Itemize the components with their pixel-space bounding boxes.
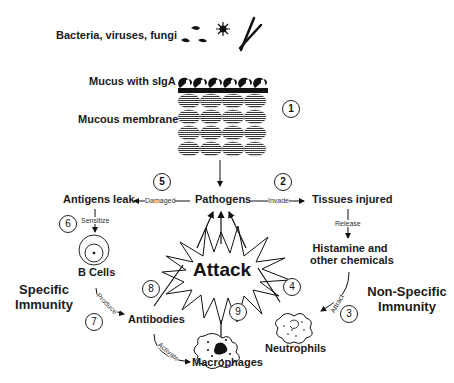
diagram-canvas bbox=[0, 0, 454, 383]
specific-line1: Specific bbox=[14, 282, 74, 297]
membrane-cells-icon bbox=[178, 94, 266, 156]
step-8: 8 bbox=[142, 280, 160, 298]
node-neutrophils: Neutrophils bbox=[265, 342, 326, 354]
nonspecific-line1: Non-Specific bbox=[362, 284, 452, 299]
fungi-icon bbox=[240, 18, 261, 50]
step-1: 1 bbox=[282, 100, 300, 118]
node-tissues-injured: Tissues injured bbox=[312, 193, 393, 205]
histamine-line1: Histamine and bbox=[310, 242, 390, 254]
histamine-line2: other chemicals bbox=[310, 254, 390, 266]
node-attack: Attack bbox=[193, 259, 251, 281]
mucus-layer-icon bbox=[178, 78, 268, 93]
node-b-cells: B Cells bbox=[78, 266, 115, 278]
neutrophil-icon bbox=[275, 313, 312, 343]
edge-sensitize: Sensitize bbox=[81, 217, 109, 224]
step-3: 3 bbox=[340, 305, 358, 323]
label-specific-immunity: Specific Immunity bbox=[14, 282, 74, 312]
step-4: 4 bbox=[283, 278, 301, 296]
edge-damaged: Damaged bbox=[145, 197, 175, 204]
node-antibodies: Antibodies bbox=[128, 313, 185, 325]
label-pathogen-types: Bacteria, viruses, fungi bbox=[56, 29, 177, 41]
edge-invade: Invade bbox=[268, 197, 289, 204]
node-pathogens: Pathogens bbox=[195, 193, 251, 205]
specific-line2: Immunity bbox=[14, 297, 74, 312]
step-7: 7 bbox=[85, 313, 103, 331]
node-macrophages: Macrophages bbox=[192, 356, 263, 368]
step-9: 9 bbox=[229, 303, 247, 321]
step-6: 6 bbox=[59, 215, 77, 233]
edge-release: Release bbox=[335, 220, 361, 227]
nonspecific-line2: Immunity bbox=[362, 299, 452, 314]
virus-icon bbox=[216, 22, 230, 36]
bacteria-icon bbox=[181, 26, 207, 42]
label-nonspecific-immunity: Non-Specific Immunity bbox=[362, 284, 452, 314]
b-cell-icon bbox=[79, 235, 109, 265]
label-membrane: Mucous membrane bbox=[78, 113, 178, 125]
step-5: 5 bbox=[153, 173, 171, 191]
node-antigens-leak: Antigens leak bbox=[63, 193, 135, 205]
step-2: 2 bbox=[274, 173, 292, 191]
node-histamine: Histamine and other chemicals bbox=[310, 242, 390, 266]
label-mucus: Mucus with sIgA bbox=[89, 75, 176, 87]
